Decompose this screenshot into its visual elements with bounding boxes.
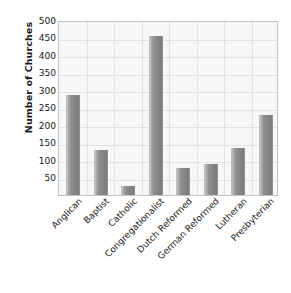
x-axis-tick-labels: AnglicanBaptistCatholicCongregationalist…	[58, 196, 278, 291]
bar	[204, 164, 218, 195]
y-axis-tick-labels: 50045040035030025020015010050	[28, 18, 56, 196]
y-axis-tick-label: 300	[28, 87, 56, 96]
y-axis-tick-label: 150	[28, 139, 56, 148]
bar	[66, 95, 80, 195]
bar	[231, 148, 245, 195]
bars-group	[59, 22, 277, 195]
y-axis-tick-label: 350	[28, 69, 56, 78]
x-axis-tick-label-text: Anglican	[49, 196, 83, 230]
y-axis-tick-label: 500	[28, 17, 56, 26]
bar	[259, 115, 273, 196]
y-axis-tick-label: 100	[28, 157, 56, 166]
bar	[176, 168, 190, 195]
y-axis-tick-label: 450	[28, 34, 56, 43]
y-axis-tick-label: 400	[28, 52, 56, 61]
bar	[121, 186, 135, 195]
bar	[94, 150, 108, 196]
y-axis-tick-label: 250	[28, 104, 56, 113]
y-axis-tick-label: 200	[28, 122, 56, 131]
bar-chart: Number of Churches 500450400350300250200…	[0, 0, 291, 293]
bar	[149, 36, 163, 195]
y-axis-tick-label: 50	[28, 174, 56, 183]
plot-area	[58, 21, 278, 196]
